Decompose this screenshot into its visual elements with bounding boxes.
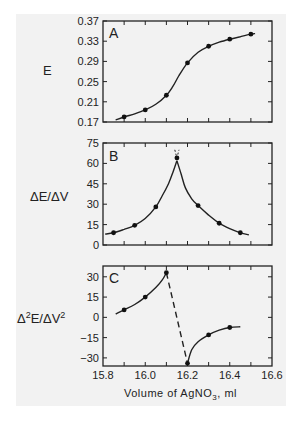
x-tick-label: 16.6: [261, 369, 282, 381]
titration-figure: A E 0.170.210.250.290.330.37 B ΔE/ΔV 015…: [0, 0, 296, 422]
panel-a-curve: [116, 34, 255, 120]
panel-c-frame: [103, 266, 272, 366]
data-point: [122, 115, 127, 120]
x-tick-label: 15.8: [92, 369, 113, 381]
y-tick-label: 0: [93, 311, 99, 323]
y-tick-label: 0.17: [78, 116, 99, 128]
y-tick-label: −30: [80, 352, 99, 364]
x-axis-label: Volume of AgNO3, ml: [124, 387, 237, 402]
panel-c-curve-right: [188, 327, 241, 364]
x-tick-label: 16.4: [219, 369, 240, 381]
y-tick-label: 0.21: [78, 96, 99, 108]
data-point: [206, 333, 211, 338]
panel-b: B ΔE/ΔV 01530456075: [30, 137, 272, 251]
data-point: [143, 295, 148, 300]
data-point: [217, 221, 222, 226]
panel-c-points: [122, 270, 232, 365]
data-point: [164, 93, 169, 98]
panel-b-curve-left: [105, 161, 177, 234]
data-point: [238, 230, 243, 235]
y-tick-label: 30: [87, 198, 99, 210]
data-point: [185, 361, 190, 366]
panel-c-letter: C: [109, 270, 119, 286]
data-point: [227, 37, 232, 42]
data-point: [248, 32, 253, 37]
y-tick-label: 45: [87, 178, 99, 190]
y-tick-label: 60: [87, 157, 99, 169]
panel-a-yticks: 0.170.210.250.290.330.37: [78, 15, 272, 128]
x-tick-label: 16.0: [135, 369, 156, 381]
panel-b-frame: [103, 143, 272, 245]
data-point: [206, 44, 211, 49]
y-tick-label: 0.25: [78, 76, 99, 88]
y-tick-label: 30: [87, 271, 99, 283]
panel-b-points: [111, 156, 243, 236]
x-tick-label: 16.2: [177, 369, 198, 381]
data-point: [111, 230, 116, 235]
y-tick-label: 0.37: [78, 15, 99, 27]
panel-a: A E 0.170.210.250.290.330.37: [43, 15, 272, 128]
panel-a-frame: [103, 21, 272, 122]
data-point: [143, 107, 148, 112]
panel-a-xticks: [124, 21, 251, 122]
data-point: [185, 61, 190, 66]
data-point: [196, 203, 201, 208]
data-point: [122, 308, 127, 313]
panel-a-ylabel: E: [43, 63, 52, 78]
panel-b-curve-right: [177, 161, 249, 235]
data-point: [175, 156, 180, 161]
y-tick-label: 15: [87, 291, 99, 303]
panel-c-dashed-segment: [166, 273, 187, 364]
panel-c: C Δ2E/ΔV2 −30−1501530 15.816.016.216.416…: [17, 266, 283, 381]
data-point: [164, 270, 169, 275]
panel-b-letter: B: [109, 148, 118, 164]
y-tick-label: 0.33: [78, 35, 99, 47]
y-tick-label: 0: [93, 239, 99, 251]
y-tick-label: 15: [87, 219, 99, 231]
data-point: [132, 223, 137, 228]
panel-a-points: [122, 32, 254, 120]
y-tick-label: 75: [87, 137, 99, 149]
panel-c-ylabel: Δ2E/ΔV2: [17, 310, 65, 326]
y-tick-label: 0.29: [78, 55, 99, 67]
data-point: [153, 205, 158, 210]
panel-b-ylabel: ΔE/ΔV: [30, 189, 69, 204]
panel-a-letter: A: [109, 25, 119, 41]
y-tick-label: −15: [80, 332, 99, 344]
data-point: [227, 325, 232, 330]
